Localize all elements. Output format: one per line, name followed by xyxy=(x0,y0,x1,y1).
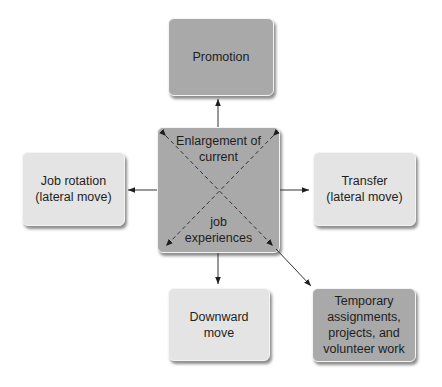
node-temporary-assignments-label: Temporary assignments, projects, and vol… xyxy=(323,293,404,357)
center-bottom-label: job experiences xyxy=(158,214,279,246)
node-downward-move-label: Downward move xyxy=(189,309,248,341)
node-promotion-label: Promotion xyxy=(193,49,250,65)
node-transfer-label: Transfer (lateral move) xyxy=(326,173,402,205)
arrow-to-temporary-assignments xyxy=(276,249,311,286)
node-promotion: Promotion xyxy=(168,18,274,96)
node-job-rotation-label: Job rotation (lateral move) xyxy=(35,173,111,205)
node-transfer: Transfer (lateral move) xyxy=(313,152,416,226)
center-top-label: Enlargement of current xyxy=(158,133,279,165)
node-job-rotation: Job rotation (lateral move) xyxy=(22,152,125,226)
node-downward-move: Downward move xyxy=(168,288,270,361)
center-node-enlargement: Enlargement of current job experiences xyxy=(157,127,280,253)
node-temporary-assignments: Temporary assignments, projects, and vol… xyxy=(312,288,416,362)
